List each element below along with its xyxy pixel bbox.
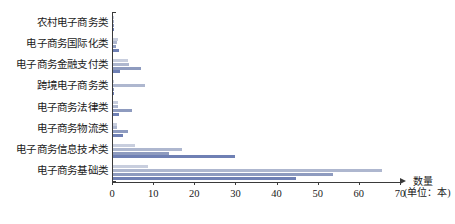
bar	[113, 88, 114, 91]
bar	[113, 173, 333, 176]
bar	[113, 63, 129, 66]
bar	[113, 41, 117, 44]
x-axis-tick-label: 0	[109, 188, 114, 199]
y-axis-label: 电子商务物流类	[37, 123, 108, 134]
bar	[113, 45, 116, 48]
bar-group	[113, 144, 401, 159]
x-axis-title-main: 数量	[404, 176, 451, 187]
x-axis-tick-label: 50	[312, 188, 323, 199]
plot-area: 010203040506070	[112, 12, 400, 182]
x-axis-title-unit: (单位：本)	[404, 187, 451, 198]
bar	[113, 38, 118, 41]
y-axis-label: 电子商务金融支付类	[16, 59, 108, 70]
bar	[113, 105, 118, 108]
bar	[113, 59, 128, 62]
bar-group	[113, 38, 401, 53]
bar-group	[113, 80, 401, 95]
y-axis-label: 跨境电子商务类	[37, 80, 108, 91]
bar	[113, 134, 123, 137]
bar	[113, 130, 128, 133]
bar	[113, 109, 132, 112]
x-axis-tick	[112, 182, 113, 185]
y-axis-label: 农村电子商务类	[37, 17, 108, 28]
x-axis-tick-label: 60	[354, 188, 365, 199]
bar	[113, 152, 169, 155]
x-axis-tick-label: 20	[189, 188, 200, 199]
bar-group	[113, 16, 401, 31]
bar	[113, 126, 117, 129]
y-axis-label: 电子商务基础类	[37, 165, 108, 176]
x-axis-tick	[359, 182, 360, 185]
bar	[113, 123, 117, 126]
bar	[113, 144, 135, 147]
x-axis-tick-label: 40	[271, 188, 282, 199]
bar	[113, 148, 182, 151]
bar	[113, 101, 118, 104]
bar	[113, 92, 114, 95]
bar	[113, 165, 148, 168]
x-axis-tick	[235, 182, 236, 185]
bar-group	[113, 165, 401, 180]
bar	[113, 28, 114, 31]
bar	[113, 70, 120, 73]
x-axis-tick	[277, 182, 278, 185]
bar-group	[113, 101, 401, 116]
y-axis-label: 电子商务信息技术类	[16, 144, 108, 155]
bar	[113, 177, 296, 180]
y-axis-top-cap	[112, 12, 116, 13]
bar	[113, 169, 382, 172]
x-axis-tick	[194, 182, 195, 185]
bar-group	[113, 59, 401, 74]
bar	[113, 84, 145, 87]
bar	[113, 24, 114, 27]
y-axis-category-labels: 农村电子商务类电子商务国际化类电子商务金融支付类跨境电子商务类电子商务法律类电子…	[0, 12, 110, 182]
x-axis-tick	[400, 182, 401, 185]
bar-chart: 农村电子商务类电子商务国际化类电子商务金融支付类跨境电子商务类电子商务法律类电子…	[0, 0, 455, 224]
bar	[113, 67, 141, 70]
x-axis-title: 数量 (单位：本)	[404, 176, 451, 198]
bar	[113, 80, 114, 83]
bar	[113, 16, 114, 19]
y-axis-label: 电子商务法律类	[37, 102, 108, 113]
bar	[113, 155, 235, 158]
x-axis-tick-label: 10	[148, 188, 159, 199]
y-axis-label: 电子商务国际化类	[26, 38, 108, 49]
x-axis-line	[112, 182, 401, 183]
x-axis-tick	[318, 182, 319, 185]
bar-group	[113, 123, 401, 138]
bar	[113, 113, 119, 116]
x-axis-tick	[153, 182, 154, 185]
x-axis-tick-label: 30	[230, 188, 241, 199]
bar	[113, 20, 114, 23]
bar	[113, 49, 119, 52]
